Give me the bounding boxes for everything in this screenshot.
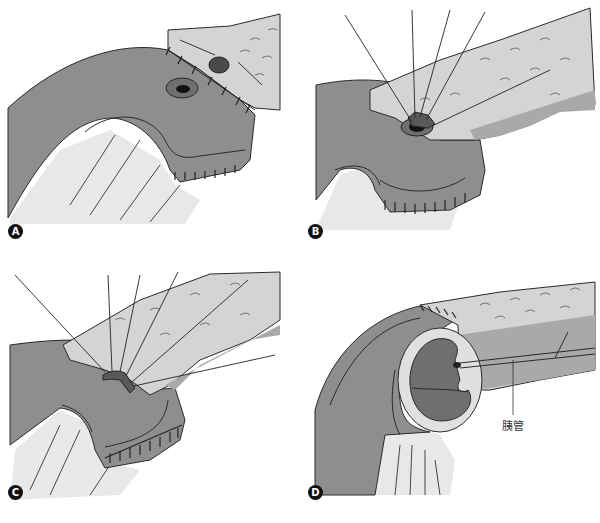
panel-c: C [0,260,300,520]
panel-c-illustration [0,260,300,505]
panel-a-badge: A [8,224,23,239]
panel-d-badge: D [308,485,323,500]
panel-d-illustration [300,260,600,505]
panel-b: B [300,0,600,260]
pancreatic-duct-label: 胰管 [502,417,524,433]
panel-c-badge: C [8,485,23,500]
panel-a: A [0,0,300,260]
panel-d: 胰管 D [300,260,600,520]
panel-b-illustration [300,0,600,260]
panel-a-illustration [0,0,300,260]
panel-b-badge: B [308,224,323,239]
